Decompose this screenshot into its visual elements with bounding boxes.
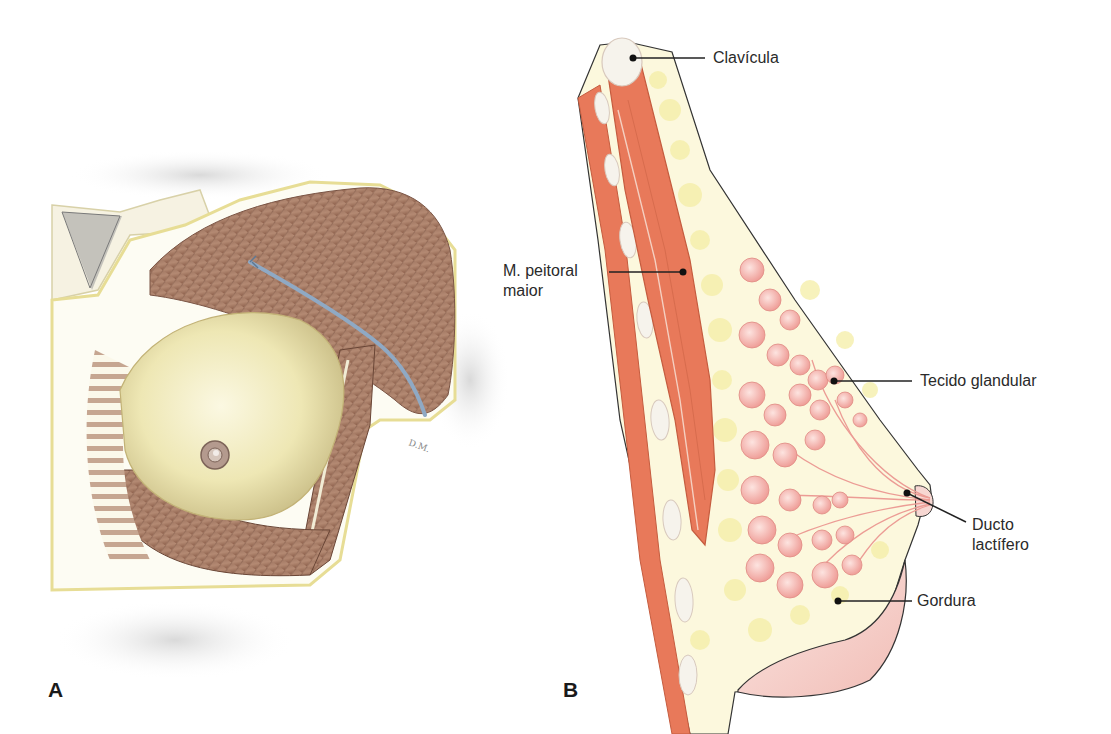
panel-letter-b: B — [563, 678, 578, 702]
label-gordura: Gordura — [917, 591, 976, 611]
panel-a: D.M. A — [0, 0, 560, 734]
chest-anatomy-drawing: D.M. — [0, 0, 560, 734]
label-peitoral-maior: M. peitoral maior — [503, 261, 613, 301]
label-tecido-glandular: Tecido glandular — [920, 371, 1037, 391]
clavicle-bone — [602, 38, 642, 86]
breast-cross-section — [555, 0, 1111, 734]
label-ducto-line2: lactífero — [972, 535, 1062, 555]
label-peitoral-line1: M. peitoral — [503, 261, 613, 281]
svg-text:D.M.: D.M. — [407, 437, 431, 454]
panel-b: Clavícula M. peitoral maior Tecido gland… — [555, 0, 1111, 734]
label-ducto-line1: Ducto — [972, 515, 1062, 535]
label-ducto-lactifero: Ducto lactífero — [972, 515, 1062, 555]
panel-letter-a: A — [48, 678, 63, 702]
label-peitoral-line2: maior — [503, 281, 613, 301]
label-clavicula: Clavícula — [713, 48, 779, 68]
